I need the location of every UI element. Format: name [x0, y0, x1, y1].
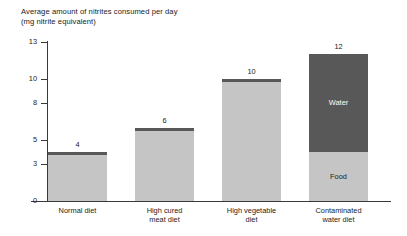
category-label-high-vegetable-diet: High vegetable diet — [207, 206, 296, 225]
category-label-contaminated-water-diet: Contaminated water diet — [294, 206, 383, 225]
segment-label-water: Water — [309, 99, 368, 107]
bar-segment-food — [48, 152, 107, 201]
bar-value-label-contaminated-water-diet: 12 — [309, 43, 368, 51]
y-tick-label-3: 3 — [9, 160, 37, 168]
bar-value-label-high-vegetable-diet: 10 — [222, 68, 281, 76]
y-tick-label-8: 8 — [9, 99, 37, 107]
nitrites-bar-chart: Average amount of nitrites consumed per … — [0, 0, 407, 236]
x-axis-line — [31, 201, 391, 202]
y-tick-label-13: 13 — [9, 38, 37, 46]
y-tick-mark-5 — [41, 140, 48, 141]
bar-cap — [222, 79, 281, 82]
bar-high-vegetable-diet[interactable] — [222, 79, 281, 201]
y-tick-label-10: 10 — [9, 75, 37, 83]
category-label-normal-diet: Normal diet — [33, 206, 122, 215]
y-tick-mark-3 — [41, 164, 48, 165]
bar-value-label-high-cured-meat-diet: 6 — [135, 117, 194, 125]
y-tick-label-5: 5 — [9, 136, 37, 144]
bar-value-label-normal-diet: 4 — [48, 141, 107, 149]
bar-cap — [48, 152, 107, 155]
y-tick-mark-8 — [41, 103, 48, 104]
bar-segment-food — [222, 79, 281, 201]
segment-label-food: Food — [309, 173, 368, 181]
category-label-high-cured-meat-diet: High cured meat diet — [120, 206, 209, 225]
y-tick-label-0: 0 — [9, 197, 37, 205]
y-tick-mark-13 — [41, 42, 48, 43]
bar-cap — [135, 128, 194, 131]
bar-high-cured-meat-diet[interactable] — [135, 128, 194, 201]
chart-title: Average amount of nitrites consumed per … — [21, 7, 178, 26]
bar-normal-diet[interactable] — [48, 152, 107, 201]
y-tick-mark-10 — [41, 79, 48, 80]
bar-segment-food — [135, 128, 194, 201]
y-tick-mark-0 — [41, 201, 48, 202]
